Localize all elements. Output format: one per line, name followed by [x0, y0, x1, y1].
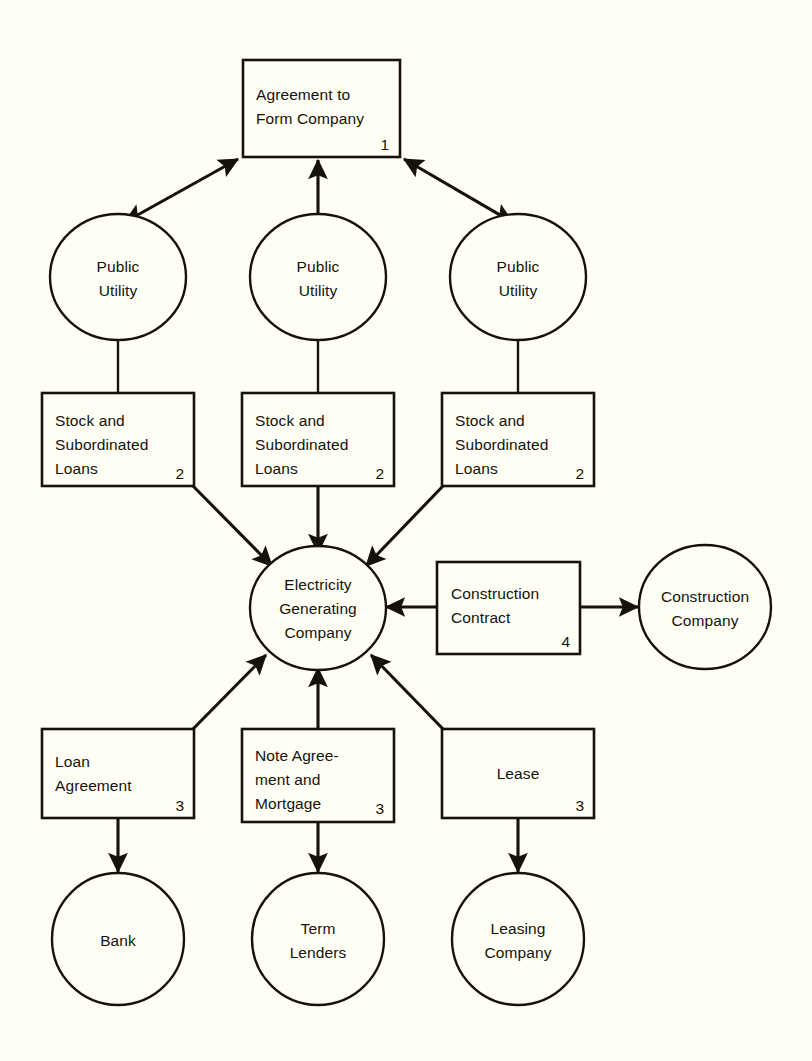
- edge-public-utility-right-to-agreement: [404, 159, 512, 222]
- term-lenders-line2: Lenders: [290, 944, 347, 961]
- lease-ref: 3: [575, 797, 584, 814]
- node-stock-and-subordinated-loans-left[interactable]: Stock and Subordinated Loans 2: [42, 393, 194, 486]
- node-stock-and-subordinated-loans-center[interactable]: Stock and Subordinated Loans 2: [242, 393, 394, 486]
- node-electricity-generating-company[interactable]: Electricity Generating Company: [250, 546, 386, 670]
- edge-stock-right-to-egc: [366, 486, 443, 566]
- leasing-company-circle[interactable]: [452, 873, 584, 1005]
- public-utility-left-line2: Utility: [99, 282, 138, 299]
- node-loan-agreement[interactable]: Loan Agreement 3: [42, 729, 194, 818]
- note-agreement-line3: Mortgage: [255, 795, 321, 812]
- loan-agreement-line1: Loan: [55, 753, 90, 770]
- note-agreement-ref: 3: [375, 800, 384, 817]
- stock-right-line2: Subordinated: [455, 436, 548, 453]
- construction-company-line1: Construction: [661, 588, 749, 605]
- node-agreement-to-form-company[interactable]: Agreement to Form Company 1: [243, 60, 400, 157]
- stock-center-line2: Subordinated: [255, 436, 348, 453]
- note-agreement-line2: ment and: [255, 771, 320, 788]
- agreement-to-form-company-ref: 1: [380, 136, 389, 153]
- construction-company-circle[interactable]: [639, 545, 771, 669]
- flowchart-diagram: Agreement to Form Company 1 Public Utili…: [0, 0, 812, 1061]
- edge-stock-left-to-egc: [193, 486, 272, 566]
- node-term-lenders[interactable]: Term Lenders: [252, 873, 384, 1005]
- stock-right-ref: 2: [575, 465, 584, 482]
- agreement-to-form-company-box[interactable]: [243, 60, 400, 157]
- stock-left-line3: Loans: [55, 460, 98, 477]
- public-utility-right-circle[interactable]: [450, 214, 586, 340]
- diagram-canvas: Agreement to Form Company 1 Public Utili…: [0, 0, 812, 1061]
- node-note-agreement-and-mortgage[interactable]: Note Agree- ment and Mortgage 3: [242, 729, 394, 822]
- lease-line1: Lease: [497, 765, 540, 782]
- public-utility-right-line1: Public: [497, 258, 540, 275]
- note-agreement-line1: Note Agree-: [255, 747, 339, 764]
- agreement-to-form-company-line2: Form Company: [256, 110, 364, 127]
- stock-center-ref: 2: [375, 465, 384, 482]
- node-bank[interactable]: Bank: [52, 873, 184, 1005]
- public-utility-center-line1: Public: [297, 258, 340, 275]
- stock-left-line2: Subordinated: [55, 436, 148, 453]
- stock-left-ref: 2: [175, 465, 184, 482]
- public-utility-left-line1: Public: [97, 258, 140, 275]
- construction-company-line2: Company: [671, 612, 738, 629]
- node-public-utility-right[interactable]: Public Utility: [450, 214, 586, 340]
- edge-lease-to-egc: [371, 655, 443, 729]
- public-utility-left-circle[interactable]: [50, 214, 186, 340]
- term-lenders-circle[interactable]: [252, 873, 384, 1005]
- node-stock-and-subordinated-loans-right[interactable]: Stock and Subordinated Loans 2: [442, 393, 594, 486]
- node-lease[interactable]: Lease 3: [442, 729, 594, 818]
- public-utility-right-line2: Utility: [499, 282, 538, 299]
- loan-agreement-box[interactable]: [42, 729, 194, 818]
- stock-right-line1: Stock and: [455, 412, 525, 429]
- node-construction-contract[interactable]: Construction Contract 4: [437, 562, 580, 654]
- electricity-generating-company-line1: Electricity: [284, 576, 352, 593]
- term-lenders-line1: Term: [301, 920, 336, 937]
- electricity-generating-company-line2: Generating: [279, 600, 357, 617]
- edge-loan-agreement-to-egc: [193, 655, 266, 729]
- construction-contract-line1: Construction: [451, 585, 539, 602]
- public-utility-center-line2: Utility: [299, 282, 338, 299]
- node-construction-company[interactable]: Construction Company: [639, 545, 771, 669]
- stock-right-line3: Loans: [455, 460, 498, 477]
- construction-contract-box[interactable]: [437, 562, 580, 654]
- node-public-utility-left[interactable]: Public Utility: [50, 214, 186, 340]
- bank-line1: Bank: [100, 932, 136, 949]
- stock-left-line1: Stock and: [55, 412, 125, 429]
- loan-agreement-line2: Agreement: [55, 777, 132, 794]
- construction-contract-line2: Contract: [451, 609, 511, 626]
- public-utility-center-circle[interactable]: [250, 214, 386, 340]
- node-public-utility-center[interactable]: Public Utility: [250, 214, 386, 340]
- electricity-generating-company-line3: Company: [284, 624, 351, 641]
- stock-center-line3: Loans: [255, 460, 298, 477]
- construction-contract-ref: 4: [561, 633, 570, 650]
- stock-center-line1: Stock and: [255, 412, 325, 429]
- agreement-to-form-company-line1: Agreement to: [256, 86, 350, 103]
- leasing-company-line1: Leasing: [491, 920, 546, 937]
- loan-agreement-ref: 3: [175, 797, 184, 814]
- node-leasing-company[interactable]: Leasing Company: [452, 873, 584, 1005]
- edge-public-utility-left-to-agreement: [125, 159, 238, 222]
- leasing-company-line2: Company: [484, 944, 551, 961]
